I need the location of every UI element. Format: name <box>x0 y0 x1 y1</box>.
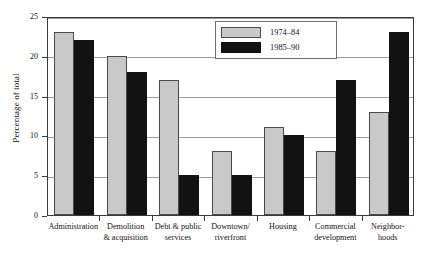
y-axis-tick-label: 25 <box>14 13 38 21</box>
bar <box>284 135 304 215</box>
x-axis-labels: AdministrationDemolition& acquisitionDeb… <box>47 221 414 255</box>
bar <box>389 32 409 215</box>
bar-chart-figure: Percentage of total 0510152025 Administr… <box>0 0 427 258</box>
x-axis-category-line: riverfront <box>198 232 262 243</box>
legend-swatch <box>221 27 261 38</box>
legend-label: 1985–90 <box>270 43 299 53</box>
y-axis-tick-label: 5 <box>14 172 38 180</box>
chart-legend: 1974–841985–90 <box>215 21 337 59</box>
x-axis-category-line: Downtown/ <box>211 222 250 231</box>
x-axis-category-line: Commercial <box>315 222 355 231</box>
bar <box>74 40 94 215</box>
bar <box>212 151 232 215</box>
bar <box>179 175 199 215</box>
bar <box>369 112 389 215</box>
gridline <box>48 137 413 138</box>
bar <box>54 32 74 215</box>
legend-swatch <box>221 42 261 53</box>
x-axis-category-line: Neighbor- <box>371 222 405 231</box>
bar <box>107 56 127 215</box>
bar <box>336 80 356 215</box>
x-axis-category-line: hoods <box>356 232 420 243</box>
gridline <box>48 18 413 19</box>
y-axis-tick-label: 15 <box>14 93 38 101</box>
x-axis-category-line: Debt & public <box>155 222 202 231</box>
y-axis-tick-label: 20 <box>14 53 38 61</box>
y-axis-ticks: 0510152025 <box>0 17 47 216</box>
x-axis-category-label: Neighbor-hoods <box>356 221 420 243</box>
bar <box>316 151 336 215</box>
x-axis-category-line: Demolition <box>107 222 144 231</box>
bar <box>127 72 147 215</box>
legend-item: 1974–84 <box>221 26 331 39</box>
gridline <box>48 97 413 98</box>
bar <box>264 127 284 215</box>
bar <box>232 175 252 215</box>
legend-item: 1985–90 <box>221 41 331 54</box>
x-axis-category-line: Housing <box>269 222 297 231</box>
legend-label: 1974–84 <box>270 28 299 38</box>
y-axis-tick-label: 10 <box>14 132 38 140</box>
y-axis-tick-label: 0 <box>14 212 38 220</box>
bar <box>159 80 179 215</box>
x-axis-category-line: Administration <box>48 222 98 231</box>
